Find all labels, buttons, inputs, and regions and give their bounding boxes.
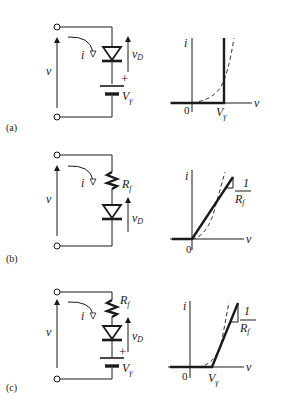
panel-tag-a: (a) <box>6 122 17 134</box>
plus-sign: + <box>121 71 128 86</box>
slope-numerator: 1 <box>243 176 249 190</box>
panel-b: v i Rf vD (b) i v 0 1 Rf <box>6 152 252 265</box>
current-arrowhead-icon <box>90 179 96 185</box>
slope-denominator: Rf <box>234 192 246 207</box>
panel-tag-c: (c) <box>6 382 17 394</box>
slope-denominator: Rf <box>239 321 251 336</box>
y-axis-label: i <box>183 299 186 313</box>
resistor-label: Rf <box>121 177 133 193</box>
resistor-icon <box>107 172 117 189</box>
voltage-label: v <box>46 64 52 78</box>
y-axis-label: i <box>185 169 188 183</box>
origin-label: 0 <box>186 243 192 255</box>
top-wire <box>60 292 112 300</box>
graph-c: i v 0 Vγ 1 Rf <box>168 299 256 387</box>
top-terminal <box>54 289 60 295</box>
x-axis-label: v <box>254 96 260 110</box>
circuit-a: v i vD + Vγ <box>46 24 143 120</box>
origin-label: 0 <box>182 370 188 382</box>
bottom-terminal <box>54 114 60 120</box>
diode-voltage-label: vD <box>132 211 143 226</box>
panel-tag-b: (b) <box>6 253 18 265</box>
model-curve <box>171 38 224 103</box>
voltage-label: v <box>46 325 52 339</box>
current-label: i <box>81 48 84 62</box>
circuit-c: v i Rf vD + Vγ <box>46 289 143 382</box>
diode-icon <box>102 205 122 219</box>
diode-icon <box>102 47 122 61</box>
x-axis-label: v <box>246 360 252 374</box>
v-gamma-tick-label: Vγ <box>208 371 219 387</box>
x-axis-label: v <box>246 232 252 246</box>
current-label: i <box>81 309 84 323</box>
diode-icon <box>102 326 122 340</box>
bottom-wire <box>60 220 112 246</box>
actual-diode-curve <box>192 38 234 103</box>
graph-b: i v 0 1 Rf <box>170 169 252 255</box>
graph-a: i v 0 Vγ <box>170 36 260 121</box>
panel-a: v i vD + Vγ (a) i v 0 Vγ <box>6 24 260 134</box>
diode-voltage-label: vD <box>132 329 143 344</box>
top-terminal <box>54 152 60 158</box>
battery-icon <box>100 358 124 366</box>
bottom-terminal <box>54 243 60 249</box>
plus-sign: + <box>119 344 126 359</box>
model-curve <box>172 177 233 239</box>
y-axis-label: i <box>184 36 187 50</box>
origin-label: 0 <box>184 104 190 116</box>
current-arrowhead-icon <box>90 51 96 57</box>
actual-diode-curve <box>192 172 225 239</box>
bottom-wire <box>60 96 112 117</box>
slope-numerator: 1 <box>244 304 250 318</box>
panel-c: v i Rf vD + Vγ (c) i v 0 Vγ 1 Rf <box>6 289 256 394</box>
top-wire <box>60 27 112 47</box>
battery-icon <box>100 86 124 94</box>
resistor-label: Rf <box>119 293 131 309</box>
bottom-terminal <box>54 376 60 382</box>
bottom-wire <box>60 368 112 379</box>
diode-voltage-label: vD <box>132 47 143 62</box>
v-gamma-tick-label: Vγ <box>216 105 227 121</box>
circuit-b: v i Rf vD <box>46 152 143 249</box>
model-curve <box>170 303 238 367</box>
top-terminal <box>54 24 60 30</box>
current-label: i <box>81 176 84 190</box>
resistor-icon <box>107 300 117 317</box>
current-arrowhead-icon <box>90 313 96 319</box>
battery-label: Vγ <box>122 361 133 377</box>
battery-label: Vγ <box>122 89 133 105</box>
voltage-label: v <box>46 192 52 206</box>
diode-models-figure: v i vD + Vγ (a) i v 0 Vγ <box>0 0 284 410</box>
